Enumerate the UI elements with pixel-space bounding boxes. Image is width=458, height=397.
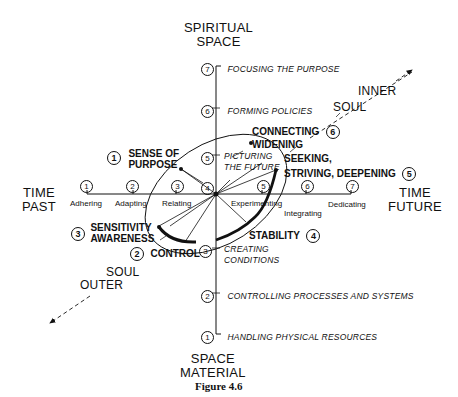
stage-6-connecting-widening: CONNECTING 6 WIDENING	[252, 122, 340, 150]
level-number: 1	[201, 331, 214, 344]
axis-title-inner: INNER	[358, 84, 396, 98]
horizontal-level-6-label: Integrating	[284, 210, 322, 218]
axis-title-line: SPACE	[180, 352, 246, 366]
level-number: 5	[257, 180, 270, 193]
stage-label: PURPOSE	[128, 159, 179, 170]
level-label: CONDITIONS	[224, 255, 279, 266]
vertical-level-3-label: CREATING CONDITIONS	[224, 244, 279, 266]
stage-number: 2	[130, 247, 144, 261]
vertical-level-5-label: PICTURING THE FUTURE	[224, 151, 280, 173]
stage-label: STABILITY	[249, 230, 300, 241]
horizontal-level-2: 2	[126, 176, 139, 193]
stage-number: 5	[402, 167, 416, 181]
vertical-level-5: 5	[201, 148, 214, 165]
level-label: FORMING POLICIES	[227, 106, 312, 116]
level-number: 7	[201, 63, 214, 76]
axis-title-line: PAST	[22, 200, 56, 214]
horizontal-level-1: 1	[80, 176, 93, 193]
horizontal-level-7-label: Dedicating	[328, 201, 366, 209]
level-label: FOCUSING THE PURPOSE	[227, 64, 339, 74]
axis-title-line: FUTURE	[388, 200, 442, 214]
axis-title-soul-upper: SOUL	[333, 100, 366, 114]
stage-3-sensitivity-awareness: 3 SENSITIVITY AWARENESS	[71, 222, 154, 244]
axis-title-time-future: TIME FUTURE	[388, 186, 442, 214]
axis-title-spiritual-space: SPIRITUAL SPACE	[184, 21, 253, 49]
horizontal-level-2-label: Adapting	[115, 200, 147, 208]
axis-title-outer: OUTER	[80, 278, 123, 292]
level-number: 1	[80, 180, 93, 193]
level-label: PICTURING	[224, 151, 280, 162]
axis-title-line: TIME	[22, 186, 56, 200]
stage-5-seeking-striving-deepening: SEEKING, STRIVING, DEEPENING 5	[284, 153, 416, 181]
figure-caption: Figure 4.6	[195, 381, 242, 392]
vertical-level-3: 3	[199, 241, 212, 258]
level-label: THE FUTURE	[224, 162, 280, 173]
horizontal-level-3-label: Relating	[162, 200, 191, 208]
level-label: CREATING	[224, 244, 279, 255]
horizontal-level-5: 5	[257, 176, 270, 193]
stage-label: CONTROL	[150, 248, 199, 259]
axis-title-line: TIME	[388, 186, 442, 200]
vertical-level-4: 4	[201, 178, 214, 195]
level-number: 7	[346, 180, 359, 193]
axis-title-line: MATERIAL	[180, 366, 246, 380]
stage-label: SENSITIVITY	[90, 222, 154, 233]
level-number: 6	[301, 180, 314, 193]
level-number: 3	[171, 180, 184, 193]
axis-title-soul-lower: SOUL	[106, 265, 139, 279]
stage-2-control: 2 CONTROL	[130, 244, 200, 261]
level-label: CONTROLLING PROCESSES AND SYSTEMS	[227, 291, 413, 301]
axis-title-space-material: SPACE MATERIAL	[180, 352, 246, 380]
stage-label: WIDENING	[252, 139, 340, 150]
axis-title-line: SPACE	[184, 35, 253, 49]
vertical-level-1: 1 HANDLING PHYSICAL RESOURCES	[201, 327, 377, 344]
stage-number: 4	[306, 229, 320, 243]
vertical-level-7: 7 FOCUSING THE PURPOSE	[201, 59, 340, 76]
level-label: HANDLING PHYSICAL RESOURCES	[227, 332, 377, 342]
stage-number: 6	[326, 125, 340, 139]
level-number: 6	[201, 105, 214, 118]
axis-title-time-past: TIME PAST	[22, 186, 56, 214]
level-number: 3	[199, 245, 212, 258]
stage-number: 1	[107, 151, 121, 165]
vertical-level-2: 2 CONTROLLING PROCESSES AND SYSTEMS	[201, 286, 414, 303]
stage-label: AWARENESS	[90, 233, 154, 244]
horizontal-level-5-label: Experimenting	[231, 200, 282, 208]
stage-1-sense-of-purpose: 1 SENSE OF PURPOSE	[107, 148, 179, 170]
level-number: 2	[201, 290, 214, 303]
level-number: 2	[126, 180, 139, 193]
level-number: 5	[201, 152, 214, 165]
level-number: 4	[201, 182, 214, 195]
stage-label: STRIVING, DEEPENING	[284, 168, 396, 179]
stage-4-stability: STABILITY 4	[249, 226, 320, 243]
horizontal-level-1-label: Adhering	[70, 200, 102, 208]
horizontal-level-3: 3	[171, 176, 184, 193]
stage-number: 3	[71, 227, 85, 241]
vertical-level-6: 6 FORMING POLICIES	[201, 101, 312, 118]
stage-label: CONNECTING	[252, 126, 319, 137]
stage-label: SENSE OF	[128, 148, 179, 159]
axis-title-line: SPIRITUAL	[184, 21, 253, 35]
